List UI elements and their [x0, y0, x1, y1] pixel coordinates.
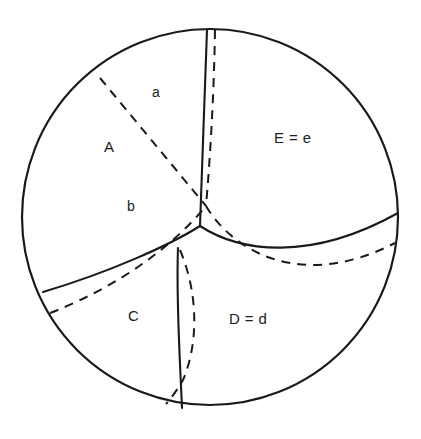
diagram-svg: [0, 0, 421, 439]
circle-outline: [22, 29, 398, 405]
dashed-boundary-right: [206, 206, 395, 265]
solid-boundary-bottom: [177, 248, 182, 408]
figure-root: A a b C D = d E = e: [0, 0, 421, 439]
dashed-boundary-top: [206, 30, 215, 206]
dashed-boundary-left: [50, 206, 206, 313]
region-label-A: A: [104, 139, 114, 154]
region-label-E: E = e: [274, 130, 311, 145]
region-label-b: b: [127, 199, 135, 213]
region-label-C: C: [128, 308, 139, 323]
region-label-D: D = d: [229, 311, 267, 326]
solid-boundary-right: [200, 213, 398, 248]
region-label-a: a: [152, 85, 160, 99]
